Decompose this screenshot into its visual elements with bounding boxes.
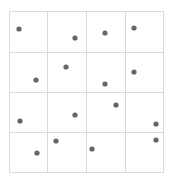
scatter-points bbox=[16, 25, 158, 155]
point-dot bbox=[33, 77, 38, 82]
point-dot bbox=[72, 35, 77, 40]
point-dot bbox=[131, 25, 136, 30]
point-dot bbox=[113, 102, 118, 107]
point-dot bbox=[89, 146, 94, 151]
point-dot bbox=[63, 64, 68, 69]
point-dot bbox=[17, 118, 22, 123]
point-dot bbox=[72, 112, 77, 117]
grid-lines bbox=[9, 11, 164, 173]
point-dot bbox=[53, 138, 58, 143]
point-dot bbox=[34, 150, 39, 155]
point-dot bbox=[153, 137, 158, 142]
point-dot bbox=[102, 30, 107, 35]
point-grid-diagram bbox=[0, 0, 169, 187]
point-dot bbox=[102, 81, 107, 86]
point-dot bbox=[16, 26, 21, 31]
point-dot bbox=[153, 121, 158, 126]
point-dot bbox=[131, 69, 136, 74]
